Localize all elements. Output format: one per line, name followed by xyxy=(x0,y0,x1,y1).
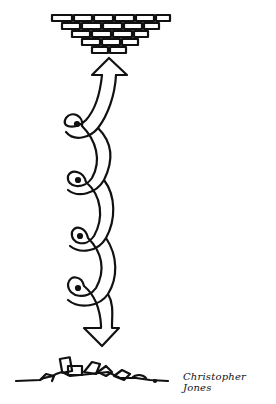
curly-stem xyxy=(65,75,116,325)
brick-wall-icon xyxy=(52,15,170,53)
artist-signature: Christopher Jones xyxy=(183,371,276,393)
rubble-pile-icon xyxy=(16,357,168,382)
arrow-down-icon xyxy=(84,325,119,346)
arrow-up-icon xyxy=(92,58,127,75)
illustration-canvas xyxy=(0,0,276,404)
